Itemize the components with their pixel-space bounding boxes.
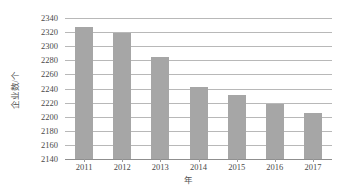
x-tick-label: 2014 xyxy=(179,162,219,172)
x-tick-mark xyxy=(122,159,123,162)
bar-chart: 企业数/个 2340232023002280226022402220220021… xyxy=(0,0,344,195)
x-tick-label: 2011 xyxy=(64,162,104,172)
x-tick-mark xyxy=(237,159,238,162)
y-axis-title: 企业数/个 xyxy=(8,46,22,134)
y-tick-label: 2260 xyxy=(26,70,58,79)
y-axis-title-label: 企业数/个 xyxy=(11,71,20,109)
bar[interactable] xyxy=(113,33,131,159)
plot-area xyxy=(65,18,332,160)
bar[interactable] xyxy=(228,95,246,159)
y-tick-label: 2280 xyxy=(26,56,58,65)
x-tick-label: 2013 xyxy=(140,162,180,172)
bars-group xyxy=(65,18,332,160)
y-tick-label: 2240 xyxy=(26,84,58,93)
x-tick-mark xyxy=(199,159,200,162)
y-tick-label: 2160 xyxy=(26,141,58,150)
x-tick-mark xyxy=(313,159,314,162)
x-axis-title-label: 年 xyxy=(184,175,193,185)
y-tick-label: 2340 xyxy=(26,14,58,23)
x-tick-label: 2012 xyxy=(102,162,142,172)
bar[interactable] xyxy=(266,104,284,159)
x-tick-mark xyxy=(160,159,161,162)
x-tick-mark xyxy=(275,159,276,162)
bar[interactable] xyxy=(190,87,208,159)
x-tick-label: 2016 xyxy=(255,162,295,172)
y-tick-label: 2200 xyxy=(26,112,58,121)
y-tick-label: 2300 xyxy=(26,42,58,51)
x-axis-title: 年 xyxy=(0,176,344,185)
y-tick-label: 2220 xyxy=(26,98,58,107)
y-tick-label: 2140 xyxy=(26,155,58,164)
x-tick-label: 2017 xyxy=(293,162,333,172)
x-tick-label: 2015 xyxy=(217,162,257,172)
y-tick-label: 2320 xyxy=(26,28,58,37)
y-tick-label: 2180 xyxy=(26,127,58,136)
bar[interactable] xyxy=(304,113,322,159)
bar[interactable] xyxy=(75,27,93,159)
y-axis-tick-labels: 2340232023002280226022402220220021802160… xyxy=(26,12,58,164)
x-tick-mark xyxy=(84,159,85,162)
bar[interactable] xyxy=(151,57,169,159)
x-axis-tick-labels: 2011201220132014201520162017 xyxy=(65,162,332,176)
